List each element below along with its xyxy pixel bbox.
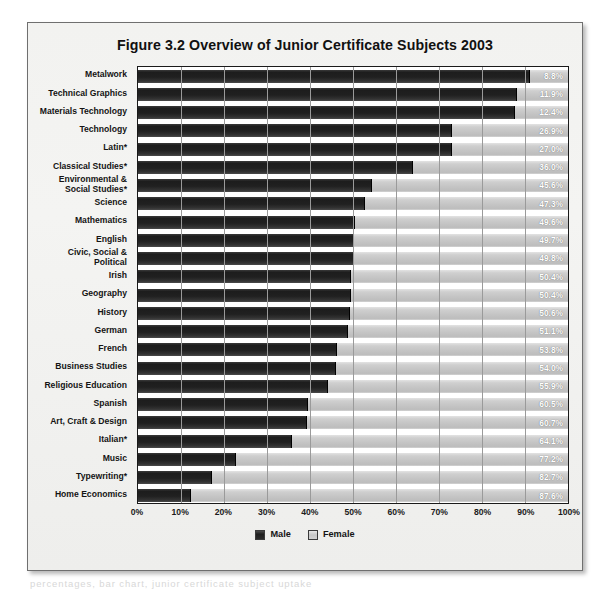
bar-value-label: 64.1% <box>539 437 568 445</box>
bar-value-label: 60.7% <box>539 419 568 427</box>
x-tick-label: 60% <box>388 507 405 517</box>
bar-row[interactable]: 47.3% <box>138 197 568 210</box>
category-label: Technology <box>23 125 132 134</box>
bar-value-label: 82.7% <box>539 473 568 481</box>
bar-row[interactable]: 53.8% <box>138 343 568 356</box>
bar-segment-female: 45.6% <box>372 179 568 192</box>
bar-segment-male <box>138 179 372 192</box>
category-label: Religious Education <box>23 381 132 390</box>
bar-segment-female: 27.0% <box>452 143 568 156</box>
bar-segment-female: 49.8% <box>354 252 568 265</box>
bar-value-label: 36.0% <box>539 163 568 171</box>
bar-row[interactable]: 77.2% <box>138 453 568 466</box>
bar-value-label: 50.4% <box>539 291 568 299</box>
bar-row[interactable]: 49.8% <box>138 252 568 265</box>
bar-value-label: 54.0% <box>539 364 568 372</box>
category-label: Italian* <box>23 435 132 444</box>
bar-segment-female: 50.4% <box>351 289 568 302</box>
x-tick-label: 10% <box>172 507 189 517</box>
bar-row[interactable]: 64.1% <box>138 435 568 448</box>
category-label: Home Economics <box>23 490 132 499</box>
bar-segment-female: 64.1% <box>292 435 568 448</box>
bar-segment-male <box>138 70 530 83</box>
bar-segment-female: 87.6% <box>191 489 568 502</box>
bar-row[interactable]: 50.4% <box>138 289 568 302</box>
bar-segment-male <box>138 362 336 375</box>
bar-value-label: 47.3% <box>539 200 568 208</box>
bar-row[interactable]: 8.8% <box>138 70 568 83</box>
legend-item[interactable]: Female <box>308 530 355 540</box>
category-label: Latin* <box>23 143 132 152</box>
bar-segment-female: 54.0% <box>336 362 568 375</box>
bar-value-label: 49.7% <box>539 236 568 244</box>
category-label: Art, Craft & Design <box>23 417 132 426</box>
bar-row[interactable]: 36.0% <box>138 161 568 174</box>
bar-segment-male <box>138 197 365 210</box>
legend-item[interactable]: Male <box>255 530 290 540</box>
category-label: Music <box>23 454 132 463</box>
legend-label: Female <box>323 530 355 539</box>
bar-segment-male <box>138 380 328 393</box>
bar-row[interactable]: 50.6% <box>138 307 568 320</box>
category-axis-labels: MetalworkTechnical GraphicsMaterials Tec… <box>28 66 132 504</box>
bar-row[interactable]: 55.9% <box>138 380 568 393</box>
bar-segment-male <box>138 453 236 466</box>
category-label: Materials Technology <box>23 107 132 116</box>
bar-row[interactable]: 87.6% <box>138 489 568 502</box>
bar-segment-male <box>138 289 351 302</box>
x-tick-label: 30% <box>258 507 275 517</box>
bar-value-label: 26.9% <box>539 127 568 135</box>
bar-row[interactable]: 50.4% <box>138 270 568 283</box>
bar-value-label: 60.5% <box>539 400 568 408</box>
x-tick-label: 40% <box>301 507 318 517</box>
bar-row[interactable]: 11.9% <box>138 88 568 101</box>
bar-segment-female: 55.9% <box>328 380 568 393</box>
bar-value-label: 51.1% <box>539 327 568 335</box>
bar-row[interactable]: 54.0% <box>138 362 568 375</box>
bar-segment-male <box>138 325 348 338</box>
bar-row[interactable]: 49.7% <box>138 234 568 247</box>
bar-row[interactable]: 12.4% <box>138 106 568 119</box>
legend-swatch-male <box>255 530 265 540</box>
bar-segment-female: 50.6% <box>350 307 568 320</box>
category-label: Metalwork <box>23 70 132 79</box>
category-label: Irish <box>23 271 132 280</box>
x-tick-label: 50% <box>344 507 361 517</box>
category-label: Classical Studies* <box>23 162 132 171</box>
figure-inner: Figure 3.2 Overview of Junior Certificat… <box>28 23 582 570</box>
bar-segment-female: 47.3% <box>365 197 568 210</box>
plot-wrapper: 8.8%11.9%12.4%26.9%27.0%36.0%45.6%47.3%4… <box>137 66 569 504</box>
category-label: Typewriting* <box>23 472 132 481</box>
x-tick-label: 80% <box>474 507 491 517</box>
bar-value-label: 49.6% <box>539 218 568 226</box>
bar-segment-female: 36.0% <box>413 161 568 174</box>
bar-segment-female: 49.7% <box>354 234 568 247</box>
bar-segment-male <box>138 270 351 283</box>
bar-value-label: 77.2% <box>539 455 568 463</box>
page-title: Figure 3.2 Overview of Junior Certificat… <box>28 37 582 53</box>
figure-frame: Figure 3.2 Overview of Junior Certificat… <box>27 22 583 571</box>
bar-row[interactable]: 26.9% <box>138 124 568 137</box>
bar-row[interactable]: 45.6% <box>138 179 568 192</box>
category-label: Technical Graphics <box>23 89 132 98</box>
category-label: Environmental & Social Studies* <box>23 175 132 194</box>
category-label: Mathematics <box>23 216 132 225</box>
bar-row[interactable]: 60.7% <box>138 416 568 429</box>
legend-swatch-female <box>308 530 318 540</box>
x-tick-label: 90% <box>517 507 534 517</box>
bar-value-label: 53.8% <box>539 346 568 354</box>
bar-row[interactable]: 51.1% <box>138 325 568 338</box>
bar-row[interactable]: 49.6% <box>138 216 568 229</box>
x-tick-label: 0% <box>131 507 143 517</box>
category-label: Spanish <box>23 399 132 408</box>
chart-legend: MaleFemale <box>28 530 582 540</box>
bar-row[interactable]: 27.0% <box>138 143 568 156</box>
bar-segment-male <box>138 343 337 356</box>
x-axis-tick-labels: 0%10%20%30%40%50%60%70%80%90%100% <box>137 507 569 523</box>
bar-segment-male <box>138 435 292 448</box>
bar-value-label: 8.8% <box>544 72 568 80</box>
bar-row[interactable]: 82.7% <box>138 471 568 484</box>
bar-row[interactable]: 60.5% <box>138 398 568 411</box>
bar-segment-male <box>138 416 307 429</box>
bar-value-label: 55.9% <box>539 382 568 390</box>
